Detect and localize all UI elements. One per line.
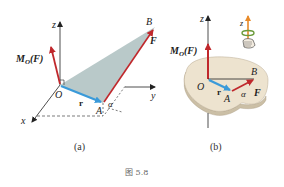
figure-caption: 图 5.8: [125, 168, 148, 177]
diagram-b: z MO(F) r O A B F α z (b): [169, 13, 268, 153]
force-label-b: F: [253, 87, 261, 98]
figure-canvas: z y x MO(F) r O A B F α (a): [0, 0, 284, 187]
point-a-label-b: A: [223, 93, 231, 104]
moment-label-a: MO(F): [15, 53, 43, 66]
point-b-label-b: B: [251, 66, 257, 77]
diagram-a: z y x MO(F) r O A B F α (a): [15, 16, 157, 153]
point-o-label-b: O: [197, 81, 204, 92]
z-axis-label: z: [51, 19, 56, 30]
r-label-b: r: [217, 87, 221, 97]
hand-icon: [243, 39, 255, 48]
r-label-a: r: [79, 98, 83, 108]
inset-z-label: z: [239, 19, 244, 28]
force-label-a: F: [149, 35, 157, 46]
alpha-label-b: α: [241, 89, 246, 99]
caption-a: (a): [74, 141, 85, 153]
alpha-label-a: α: [108, 99, 113, 109]
point-a-label: A: [95, 105, 103, 116]
point-b-label: B: [146, 16, 152, 27]
z-axis-label-b: z: [199, 13, 204, 24]
right-hand-rule-icon: z: [239, 16, 255, 48]
moment-label-b: MO(F): [169, 45, 197, 58]
x-axis-label: x: [20, 115, 26, 126]
caption-b: (b): [210, 141, 222, 153]
y-axis-label: y: [150, 90, 156, 101]
point-o-label: O: [55, 89, 62, 100]
moment-vector: [51, 47, 60, 84]
